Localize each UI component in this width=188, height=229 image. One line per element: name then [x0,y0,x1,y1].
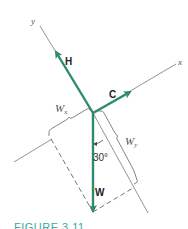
figure-caption: FIGURE 3.11 [14,221,85,229]
x-axis-label: x [177,57,182,67]
wy-label: Wy [125,135,138,149]
force-diagram: y x H C W Wx Wy 30° [0,0,188,229]
dashed-wx-projection [51,139,93,212]
vector-w-label: W [95,187,105,198]
wx-label: Wx [55,102,68,116]
y-parallel-line [93,113,148,213]
angle-label: 30° [93,152,108,163]
vector-c-label: C [109,89,116,100]
vector-h-label: H [65,56,72,67]
wy-bracket [98,111,137,184]
x-parallel-line [14,139,52,162]
y-axis-label: y [30,16,35,26]
